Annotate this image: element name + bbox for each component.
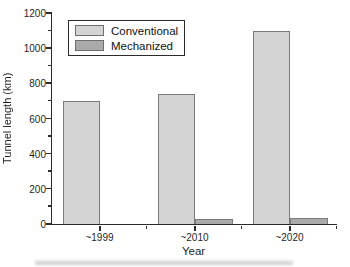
y-tick-label-600: 600 <box>2 114 46 125</box>
y-minor-tick-100 <box>48 205 52 207</box>
x-tick-label-~2020: ~2020 <box>275 232 303 243</box>
legend-swatch-conventional <box>75 25 104 36</box>
bar-conventional-2010 <box>158 94 195 224</box>
y-tick-label-800: 800 <box>2 78 46 89</box>
legend-item-mechanized: Mechanized <box>75 39 178 52</box>
y-major-tick-0 <box>46 223 52 225</box>
x-tick-label-~1999: ~1999 <box>85 232 113 243</box>
bar-mechanized-2020 <box>290 218 328 224</box>
y-major-tick-400 <box>46 153 52 155</box>
bar-mechanized-2010 <box>195 219 233 224</box>
y-tick-label-400: 400 <box>2 149 46 160</box>
legend: Conventional Mechanized <box>68 20 185 56</box>
y-minor-tick-1100 <box>48 30 52 32</box>
legend-item-conventional: Conventional <box>75 24 178 37</box>
x-minor-tick-3 <box>336 226 338 229</box>
plot-area: Conventional Mechanized 0200400600800100… <box>51 13 337 225</box>
bar-chart-figure: Tunnel length (km) Conventional Mechaniz… <box>0 0 350 267</box>
cropped-caption-artifact <box>35 261 293 265</box>
x-minor-tick-2 <box>241 226 243 229</box>
y-major-tick-800 <box>46 82 52 84</box>
x-tick-label-~2010: ~2010 <box>180 232 208 243</box>
x-major-tick-~2010 <box>194 226 196 231</box>
x-axis-title: Year <box>51 245 336 257</box>
x-major-tick-~1999 <box>99 226 101 231</box>
bar-conventional-2020 <box>253 31 290 224</box>
y-minor-tick-900 <box>48 65 52 67</box>
y-major-tick-200 <box>46 188 52 190</box>
legend-swatch-mechanized <box>75 40 104 51</box>
y-major-tick-600 <box>46 118 52 120</box>
y-major-tick-1200 <box>46 12 52 14</box>
bar-conventional-1999 <box>63 101 100 224</box>
y-tick-label-1000: 1000 <box>2 43 46 54</box>
legend-label-mechanized: Mechanized <box>111 40 173 52</box>
x-major-tick-~2020 <box>289 226 291 231</box>
y-tick-label-200: 200 <box>2 184 46 195</box>
y-major-tick-1000 <box>46 47 52 49</box>
y-minor-tick-700 <box>48 100 52 102</box>
x-minor-tick-1 <box>146 226 148 229</box>
y-tick-label-0: 0 <box>2 219 46 230</box>
y-minor-tick-300 <box>48 170 52 172</box>
legend-label-conventional: Conventional <box>111 25 178 37</box>
y-tick-label-1200: 1200 <box>2 8 46 19</box>
y-minor-tick-500 <box>48 135 52 137</box>
